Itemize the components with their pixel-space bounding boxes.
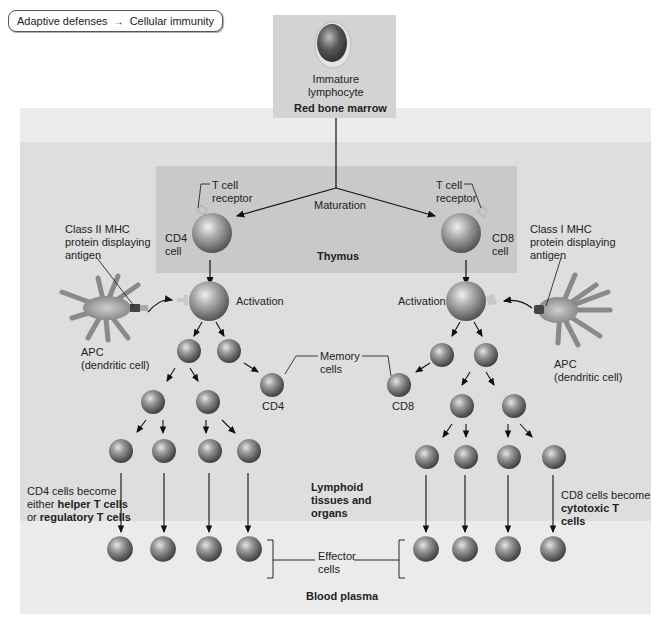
activation-left-label: Activation [236,295,284,308]
cd4-cell-icon [192,205,232,253]
class-ii-mhc-label: Class II MHC protein displaying antigen [65,223,151,262]
maturation-label: Maturation [314,199,366,212]
gen3-cells [109,439,566,469]
label-line: CD4 [165,232,187,245]
label-line: cells [320,363,360,376]
cytotoxic-t-text: cytotoxic T [561,502,650,515]
cd8-cell-label: CD8 cell [492,232,514,258]
label-line: organs [311,507,372,520]
label-line: or regulatory T cells [27,511,131,524]
label-line: tissues and [311,494,372,507]
label-line: Immature [308,73,364,86]
memory-cells-label: Memory cells [320,350,360,376]
activated-cd8-cell-icon [446,281,497,321]
text: either [27,498,58,510]
regulatory-t-cells-text: regulatory T cells [40,511,131,523]
tcr-left-label: T cell receptor [212,179,252,205]
label-line: APC [554,358,622,371]
label-line: CD8 [492,232,514,245]
apc-left-label: APC (dendritic cell) [81,346,149,372]
label-line: protein displaying [530,236,616,249]
label-line: cells [561,515,650,528]
label-line: receptor [212,192,252,205]
lymphoid-tissues-label: Lymphoid tissues and organs [311,481,372,520]
label-line: antigen [65,249,151,262]
label-line: Effector [318,550,356,563]
apc-dendritic-cell-left-icon [62,276,148,340]
memory-cd4-label: CD4 [262,400,284,413]
thymus-label: Thymus [317,250,359,263]
text: or [27,511,40,523]
label-line: cell [492,245,514,258]
gen2-cells [141,390,526,418]
label-line: CD4 cells become [27,485,131,498]
blood-plasma-label: Blood plasma [306,590,378,603]
label-line: (dendritic cell) [81,359,149,372]
activated-cd4-cell-icon [177,281,229,321]
apc-right-label: APC (dendritic cell) [554,358,622,384]
label-line: Class II MHC [65,223,151,236]
helper-t-cells-text: helper T cells [58,498,128,510]
label-line: cell [165,245,187,258]
red-bone-marrow-label: Red bone marrow [294,102,387,115]
label-line: T cell [212,179,252,192]
cd8-cell-icon [441,206,487,253]
memory-cd8-label: CD8 [392,400,414,413]
label-line: (dendritic cell) [554,371,622,384]
effector-cells-label: Effector cells [318,550,356,576]
label-line: receptor [436,192,476,205]
class-i-mhc-label: Class I MHC protein displaying antigen [530,223,616,262]
apc-dendritic-cell-right-icon [534,275,610,345]
label-line: cells [318,563,356,576]
label-line: either helper T cells [27,498,131,511]
label-line: protein displaying [65,236,151,249]
memory-cells-icons [260,373,411,397]
immature-lymphocyte-label: Immature lymphocyte [308,73,364,99]
label-line: Lymphoid [311,481,372,494]
label-line: APC [81,346,149,359]
cd8-fate-label: CD8 cells become cytotoxic T cells [561,489,650,528]
activation-right-label: Activation [398,295,446,308]
label-line: antigen [530,249,616,262]
label-line: T cell [436,179,476,192]
label-line: Memory [320,350,360,363]
label-line: lymphocyte [308,86,364,99]
immature-lymphocyte-icon [315,22,351,68]
cd4-fate-label: CD4 cells become either helper T cells o… [27,485,131,524]
label-line: CD8 cells become [561,489,650,502]
tcr-right-label: T cell receptor [436,179,476,205]
cd4-cell-label: CD4 cell [165,232,187,258]
label-line: Class I MHC [530,223,616,236]
